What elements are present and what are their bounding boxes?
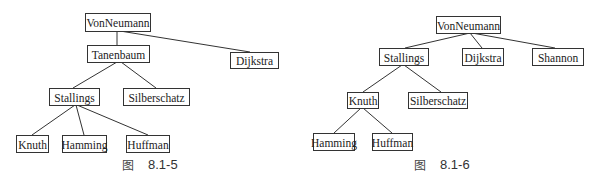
edge-stallings-knuth	[32, 105, 75, 135]
nodes: VonNeumannStallingsDijkstraShannonKnuthS…	[311, 17, 584, 151]
node-label: Hamming	[311, 137, 357, 150]
node-label: Silberschatz	[410, 95, 466, 107]
nodes: VonNeumannTanenbaumDijkstraStallingsSilb…	[17, 14, 279, 153]
figure-8-1-5-tree: VonNeumannTanenbaumDijkstraStallingsSilb…	[17, 14, 279, 153]
node-label: VonNeumann	[86, 17, 149, 29]
tree-node-huffman: Huffman	[127, 136, 170, 153]
edge-knuth-hamming	[334, 108, 361, 133]
edge-stallings-huffman	[77, 105, 148, 135]
node-label: Hamming	[62, 139, 108, 152]
node-label: Tanenbaum	[92, 49, 146, 61]
node-label: Shannon	[538, 52, 579, 64]
node-label: Knuth	[18, 139, 47, 151]
node-label: Knuth	[349, 95, 378, 107]
tree-node-huffman: Huffman	[372, 134, 414, 151]
tree-node-stallings: Stallings	[50, 89, 100, 106]
tree-node-knuth: Knuth	[348, 93, 379, 109]
tree-node-tanenbaum: Tanenbaum	[88, 46, 150, 63]
figure-caption-8-1-6: 图 8.1-6	[414, 156, 470, 173]
node-label: Dijkstra	[236, 55, 273, 68]
tree-node-dijkstra: Dijkstra	[231, 53, 279, 69]
edge-stallings-silberschatz	[404, 65, 441, 92]
edge-tanenbaum-silberschatz	[121, 62, 156, 88]
tree-node-silberschatz: Silberschatz	[124, 89, 190, 106]
node-label: Huffman	[127, 139, 169, 151]
tree-node-vonneumann: VonNeumann	[86, 14, 151, 32]
figure-label-prefix: 图	[414, 156, 426, 173]
node-label: VonNeumann	[437, 20, 500, 32]
node-label: Stallings	[384, 52, 425, 65]
figure-8-1-6-tree: VonNeumannStallingsDijkstraShannonKnuthS…	[311, 17, 584, 151]
node-label: Silberschatz	[128, 92, 184, 104]
node-label: Huffman	[372, 137, 414, 149]
figure-number: 8.1-5	[148, 157, 178, 172]
tree-node-shannon: Shannon	[533, 49, 584, 66]
tree-node-hamming: Hamming	[311, 134, 357, 151]
figure-number: 8.1-6	[440, 157, 470, 172]
tree-node-dijkstra: Dijkstra	[463, 49, 504, 66]
edge-stallings-hamming	[76, 105, 84, 135]
figure-label-prefix: 图	[122, 156, 134, 173]
tree-diagrams: VonNeumannTanenbaumDijkstraStallingsSilb…	[0, 0, 597, 183]
tree-node-knuth: Knuth	[17, 136, 49, 153]
node-label: Dijkstra	[464, 52, 501, 65]
tree-node-vonneumann: VonNeumann	[437, 17, 501, 34]
edge-stallings-knuth	[363, 65, 402, 92]
figure-caption-8-1-5: 图 8.1-5	[122, 156, 178, 173]
edge-vonneumann-dijkstra	[470, 33, 482, 48]
node-label: Stallings	[54, 92, 95, 105]
edge-knuth-huffman	[363, 108, 392, 133]
tree-node-stallings: Stallings	[380, 49, 429, 66]
edges	[334, 33, 555, 133]
edge-tanenbaum-stallings	[73, 62, 117, 88]
edge-vonneumann-stallings	[405, 33, 470, 48]
edge-vonneumann-shannon	[472, 33, 555, 48]
tree-node-hamming: Hamming	[62, 136, 108, 153]
tree-node-silberschatz: Silberschatz	[409, 93, 468, 109]
